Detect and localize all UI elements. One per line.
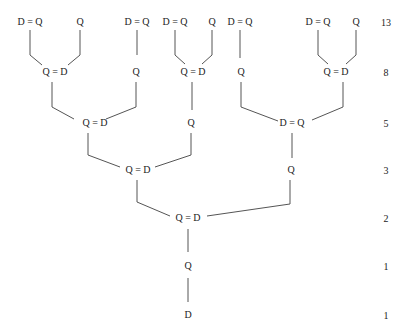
level-count: 2: [384, 213, 389, 224]
tree-node: Q = D: [82, 117, 107, 129]
edge: [68, 30, 80, 65]
tree-edges: [0, 0, 404, 336]
tree-node: D: [184, 309, 191, 321]
edge: [155, 133, 191, 167]
tree-node: Q: [352, 16, 359, 28]
tree-node: Q: [237, 66, 244, 78]
edge: [318, 30, 328, 64]
edge: [30, 30, 42, 65]
tree-node: Q: [184, 260, 191, 272]
tree-node: Q = D: [180, 66, 205, 78]
tree-node: D = Q: [124, 16, 149, 28]
tree-node: D = Q: [305, 16, 330, 28]
level-count: 13: [381, 17, 391, 28]
tree-node: D = Q: [162, 16, 187, 28]
edge: [346, 30, 356, 64]
edge: [175, 30, 185, 64]
edge: [88, 133, 120, 167]
tree-node: Q = D: [42, 66, 67, 78]
edge: [207, 180, 290, 216]
edge: [202, 30, 212, 64]
tree-node: Q: [287, 164, 294, 176]
tree-node: D = Q: [279, 117, 304, 129]
level-count: 5: [384, 118, 389, 129]
tree-node: D = Q: [17, 16, 42, 28]
edge: [312, 82, 343, 120]
tree-node: D = Q: [227, 16, 252, 28]
tree-node: Q = D: [323, 66, 348, 78]
tree-node: Q: [132, 66, 139, 78]
tree-node: Q = D: [175, 212, 200, 224]
level-count: 1: [384, 310, 389, 321]
edge: [52, 82, 74, 119]
edge: [106, 82, 136, 119]
level-count: 3: [384, 165, 389, 176]
tree-node: Q: [76, 16, 83, 28]
edge: [137, 180, 170, 216]
level-count: 1: [384, 261, 389, 272]
level-count: 8: [384, 67, 389, 78]
tree-node: Q: [208, 16, 215, 28]
edge: [241, 82, 278, 121]
tree-node: Q = D: [125, 164, 150, 176]
tree-node: Q: [187, 117, 194, 129]
